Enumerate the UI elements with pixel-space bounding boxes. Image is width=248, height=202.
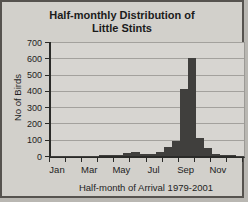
x-tick-label-Jul: Jul (139, 164, 169, 175)
x-tick-mark-0 (49, 158, 50, 162)
x-tick-label-Sep: Sep (171, 164, 201, 175)
y-tick-label-600: 600 (16, 54, 42, 64)
y-tick-mark-200 (45, 123, 49, 124)
bar-Nov-1st half (212, 154, 220, 156)
y-tick-mark-600 (45, 58, 49, 59)
x-tick-label-Jan: Jan (42, 164, 72, 175)
bar-Nov-2nd half (220, 155, 228, 156)
y-tick-label-0: 0 (16, 152, 42, 162)
bar-Aug-1st half (164, 147, 172, 156)
bar-Apr-1st half (99, 155, 107, 156)
x-tick-label-Mar: Mar (74, 164, 104, 175)
y-tick-mark-700 (45, 42, 49, 43)
bar-Sep-2nd half (188, 58, 196, 156)
bar-Jul-1st half (148, 154, 156, 156)
y-tick-mark-300 (45, 107, 49, 108)
x-tick-mark-1 (65, 158, 66, 162)
bar-Jul-2nd half (156, 152, 164, 156)
bar-Dec-1st half (228, 155, 236, 156)
y-tick-mark-500 (45, 75, 49, 76)
bar-Jun-2nd half (140, 154, 148, 156)
x-tick-label-May: May (106, 164, 136, 175)
x-axis-title: Half-month of Arrival 1979-2001 (42, 182, 248, 193)
bar-Jun-1st half (131, 152, 139, 156)
y-tick-label-100: 100 (16, 135, 42, 145)
bar-May-2nd half (123, 153, 131, 156)
x-tick-mark-11 (226, 158, 227, 162)
y-tick-mark-400 (45, 91, 49, 92)
x-tick-mark-4 (113, 158, 114, 162)
y-tick-mark-0 (45, 156, 49, 157)
bar-Oct-1st half (196, 138, 204, 156)
figure-frame: Half-monthly Distribution of Little Stin… (0, 0, 244, 198)
chart-title: Half-monthly Distribution of Little Stin… (2, 9, 242, 35)
x-tick-mark-7 (162, 158, 163, 162)
y-axis-title: No of Birds (12, 68, 23, 128)
chart-title-line2: Little Stints (2, 22, 242, 35)
x-tick-mark-9 (194, 158, 195, 162)
x-tick-mark-5 (129, 158, 130, 162)
bar-Oct-2nd half (204, 148, 212, 156)
x-tick-label-Nov: Nov (203, 164, 233, 175)
y-tick-mark-100 (45, 140, 49, 141)
x-tick-mark-3 (97, 158, 98, 162)
bar-Sep-1st half (180, 89, 188, 156)
x-tick-mark-8 (178, 158, 179, 162)
chart-title-line1: Half-monthly Distribution of (2, 9, 242, 22)
y-tick-label-700: 700 (16, 38, 42, 48)
bar-Aug-2nd half (172, 141, 180, 156)
plot-area (49, 42, 245, 158)
x-tick-mark-10 (210, 158, 211, 162)
bar-May-1st half (115, 155, 123, 156)
bar-Apr-2nd half (107, 155, 115, 156)
x-tick-mark-12 (242, 158, 243, 162)
x-tick-mark-6 (146, 158, 147, 162)
x-tick-mark-2 (81, 158, 82, 162)
bars-layer (51, 42, 244, 156)
